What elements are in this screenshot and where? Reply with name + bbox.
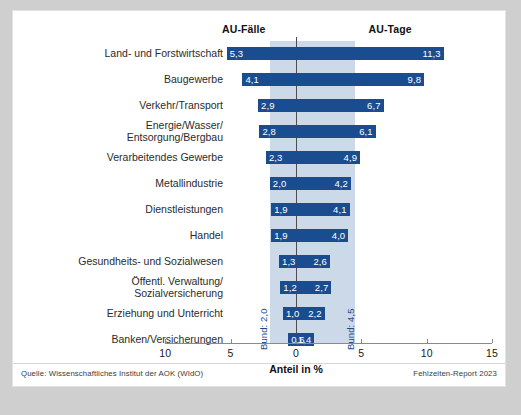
bar-value-right: 4,0 — [332, 230, 346, 241]
report-note: Fehlzeiten-Report 2023 — [413, 369, 497, 378]
bar-value-left: 1,9 — [274, 204, 288, 215]
bar-value-right: 4,1 — [333, 204, 347, 215]
column-header-au-faelle: AU-Fälle — [189, 23, 299, 35]
bund-label-right: Bund: 4,5 — [345, 308, 356, 350]
bar-value-right: 6,1 — [359, 126, 373, 137]
bar-value-right: 6,7 — [367, 100, 381, 111]
x-axis-tick — [165, 339, 166, 343]
bar-value-right: 2,6 — [313, 256, 327, 267]
chart-bar[interactable]: 1,32,6 — [279, 255, 330, 268]
chart-bar[interactable]: 2,86,1 — [259, 125, 375, 138]
category-label: Metallindustrie — [155, 178, 223, 190]
category-label: Dienstleistungen — [145, 204, 223, 216]
bar-value-left: 4,1 — [245, 74, 259, 85]
x-axis-tick-label: 0 — [276, 347, 316, 359]
chart-bar[interactable]: 2,96,7 — [258, 99, 383, 112]
category-label: Handel — [190, 230, 223, 242]
x-axis-tick-label: 5 — [211, 347, 251, 359]
bar-value-right: 11,3 — [422, 48, 440, 59]
bar-value-left: 2,9 — [261, 100, 275, 111]
category-label: Verarbeitendes Gewerbe — [107, 152, 223, 164]
bar-value-right: 9,8 — [408, 74, 422, 85]
source-note: Quelle: Wissenschaftliches Institut der … — [21, 369, 203, 378]
chart-bar[interactable]: 2,34,9 — [266, 151, 360, 164]
x-axis-tick — [361, 339, 362, 343]
reference-band-right — [296, 41, 355, 343]
bar-value-left: 1,9 — [274, 230, 288, 241]
bar-value-right: 4,9 — [344, 152, 358, 163]
category-label: Energie/Wasser/ Entsorgung/Bergbau — [127, 120, 223, 143]
x-axis-tick-label: 10 — [407, 347, 447, 359]
chart-figure: Land- und Forstwirtschaft5,311,3Baugewer… — [13, 11, 505, 386]
bar-value-right: 2,7 — [315, 282, 329, 293]
bar-value-left: 1,0 — [286, 308, 300, 319]
bar-value-left: 1,2 — [283, 282, 297, 293]
x-axis-tick-label: 15 — [472, 347, 512, 359]
bar-value-left: 5,3 — [230, 48, 244, 59]
bar-value-left: 2,8 — [262, 126, 276, 137]
category-label: Verkehr/Transport — [139, 100, 223, 112]
x-axis-tick — [427, 339, 428, 343]
bund-label-left: Bund: 2,0 — [258, 308, 269, 350]
chart-bar[interactable]: 5,311,3 — [227, 47, 444, 60]
category-label: Land- und Forstwirtschaft — [105, 48, 223, 60]
bar-value-left: 1,3 — [282, 256, 296, 267]
chart-plot-area: Land- und Forstwirtschaft5,311,3Baugewer… — [13, 11, 505, 386]
category-label: Öffentl. Verwaltung/ Sozialversicherung — [132, 276, 223, 299]
category-label: Baugewerbe — [164, 74, 223, 86]
chart-bar[interactable]: 4,19,8 — [242, 73, 424, 86]
column-header-au-tage: AU-Tage — [335, 23, 445, 35]
category-label: Gesundheits- und Sozialwesen — [78, 256, 223, 268]
x-axis-line — [165, 343, 492, 344]
figure-footer: Quelle: Wissenschaftliches Institut der … — [13, 363, 505, 386]
bar-value-right: 2,2 — [308, 308, 322, 319]
x-axis-tick — [492, 339, 493, 343]
bar-value-right: 4,2 — [334, 178, 348, 189]
chart-bar[interactable]: 1,22,7 — [280, 281, 331, 294]
chart-bar[interactable]: 1,94,0 — [271, 229, 348, 242]
bar-value-left: 2,0 — [273, 178, 287, 189]
x-axis-tick — [296, 339, 297, 343]
category-label: Erziehung und Unterricht — [107, 308, 223, 320]
x-axis-tick-label: 10 — [145, 347, 185, 359]
bar-value-left: 2,3 — [269, 152, 283, 163]
x-axis-tick — [231, 339, 232, 343]
chart-bar[interactable]: 2,04,2 — [270, 177, 351, 190]
reference-band-left — [270, 41, 296, 343]
chart-bar[interactable]: 1,02,2 — [283, 307, 325, 320]
chart-bar[interactable]: 1,94,1 — [271, 203, 349, 216]
